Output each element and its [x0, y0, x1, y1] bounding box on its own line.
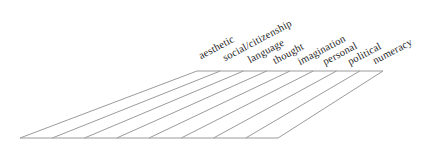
strip-divider-line — [52, 71, 220, 138]
strip-divider-line — [117, 71, 267, 138]
strip-divider-line — [214, 71, 337, 138]
figure-canvas: aesthetic social/citizenship language th… — [0, 0, 438, 150]
strip-divider-line — [246, 71, 360, 138]
strip-plane-drawing — [0, 0, 438, 150]
